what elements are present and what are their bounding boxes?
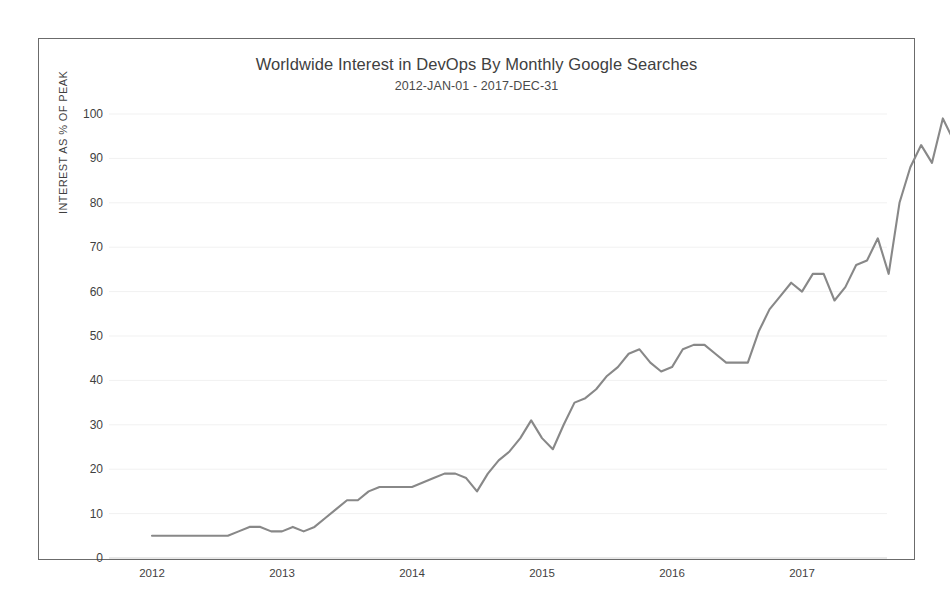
chart-subtitle: 2012-JAN-01 - 2017-DEC-31 <box>39 79 914 93</box>
y-tick-label: 80 <box>90 196 103 210</box>
x-axis-tick-labels: 201220132014201520162017 <box>109 567 887 587</box>
y-tick-label: 70 <box>90 240 103 254</box>
y-tick-label: 40 <box>90 373 103 387</box>
chart-frame: Worldwide Interest in DevOps By Monthly … <box>38 38 915 560</box>
y-axis-title: INTEREST AS % OF PEAK <box>57 0 69 214</box>
line-chart-svg <box>109 114 887 558</box>
y-tick-label: 0 <box>96 551 103 565</box>
data-series-line <box>152 114 950 536</box>
chart-title: Worldwide Interest in DevOps By Monthly … <box>39 55 914 74</box>
x-tick-label: 2012 <box>139 567 165 579</box>
y-tick-label: 90 <box>90 151 103 165</box>
x-tick-label: 2016 <box>659 567 685 579</box>
y-tick-label: 50 <box>90 329 103 343</box>
x-tick-label: 2013 <box>269 567 295 579</box>
y-tick-label: 30 <box>90 418 103 432</box>
y-tick-label: 10 <box>90 507 103 521</box>
plot-area <box>109 114 887 558</box>
x-tick-label: 2017 <box>789 567 815 579</box>
y-tick-label: 60 <box>90 285 103 299</box>
x-tick-label: 2015 <box>529 567 555 579</box>
x-tick-label: 2014 <box>399 567 425 579</box>
y-tick-label: 100 <box>83 107 103 121</box>
y-axis-tick-labels: 0102030405060708090100 <box>75 114 103 558</box>
y-tick-label: 20 <box>90 462 103 476</box>
gridlines <box>109 114 887 558</box>
